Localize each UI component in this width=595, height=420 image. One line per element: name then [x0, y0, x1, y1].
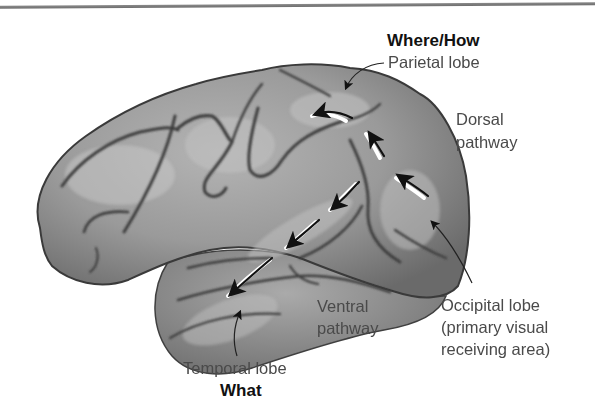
- where-how-label: Where/How: [387, 31, 480, 50]
- parietal-lobe-label: Parietal lobe: [388, 53, 480, 72]
- occipital-lobe-label-line2: (primary visual: [441, 318, 548, 337]
- occipital-lobe-label-line3: receiving area): [441, 340, 550, 359]
- ventral-pathway-label-line1: Ventral: [317, 297, 368, 316]
- temporal-lobe-label: Temporal lobe: [183, 359, 287, 378]
- dorsal-pathway-label-line1: Dorsal: [456, 110, 504, 129]
- dorsal-pathway-label-line2: pathway: [456, 133, 517, 152]
- what-label: What: [220, 381, 262, 400]
- ventral-pathway-label-line2: pathway: [317, 319, 378, 338]
- occipital-lobe-label-line1: Occipital lobe: [441, 296, 540, 315]
